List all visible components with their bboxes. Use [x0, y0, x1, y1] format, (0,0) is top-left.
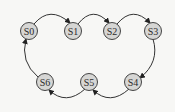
node-label: S6 [40, 77, 51, 88]
edge-s3-s4 [140, 39, 155, 78]
edge-s4-s5 [93, 89, 129, 98]
state-node-s6: S6 [37, 74, 54, 91]
state-node-s0: S0 [21, 23, 38, 40]
node-label: S5 [84, 77, 95, 88]
state-diagram: S0 S1 S2 S3 S4 S5 S6 [0, 0, 175, 112]
node-label: S3 [148, 26, 159, 37]
node-label: S4 [128, 77, 139, 88]
state-node-s4: S4 [125, 74, 142, 91]
node-label: S2 [107, 26, 118, 37]
edge-s1-s2 [78, 14, 109, 24]
edge-s6-s0 [25, 39, 39, 77]
state-node-s3: S3 [145, 23, 162, 40]
node-label: S0 [24, 26, 35, 37]
edge-s5-s6 [49, 89, 85, 98]
state-node-s1: S1 [65, 23, 82, 40]
edge-s0-s1 [34, 14, 70, 24]
state-node-s2: S2 [104, 23, 121, 40]
diagram-canvas: S0 S1 S2 S3 S4 S5 S6 [0, 0, 175, 112]
edge-s2-s3 [117, 14, 150, 24]
node-label: S1 [68, 26, 79, 37]
state-node-s5: S5 [81, 74, 98, 91]
